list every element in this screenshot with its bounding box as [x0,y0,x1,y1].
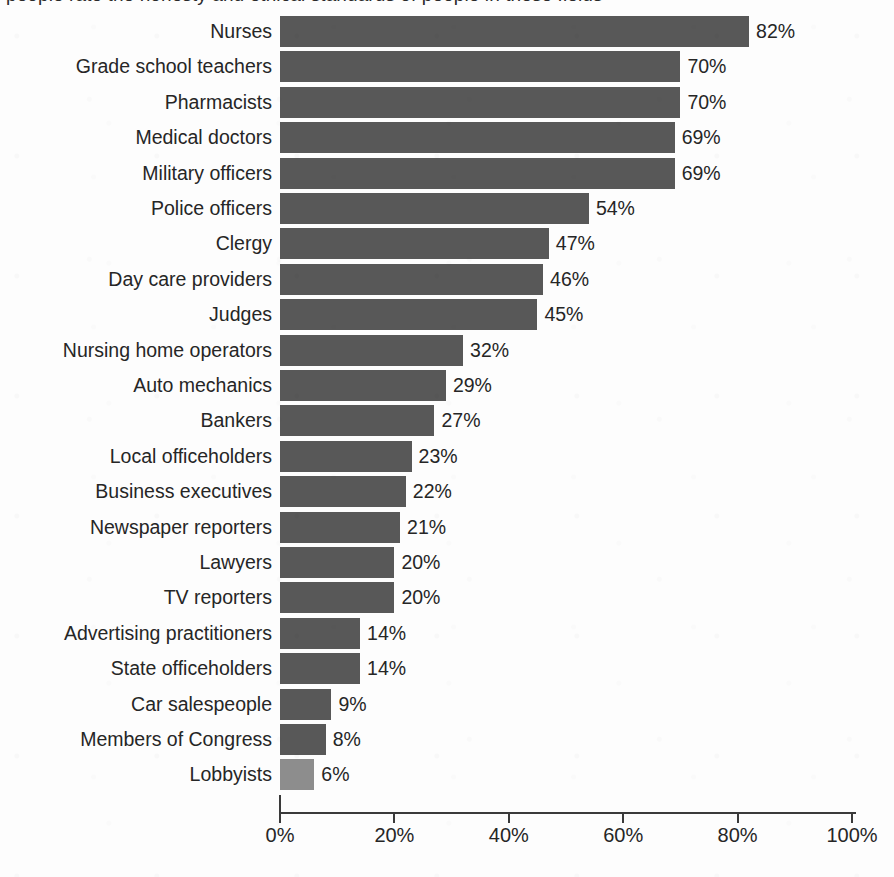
x-axis-tick-label: 40% [489,824,529,847]
bar-row: Local officeholders23% [0,441,894,472]
x-axis-tick [508,812,510,823]
bar-category-label: Advertising practitioners [0,618,272,649]
bar-category-label: Grade school teachers [0,51,272,82]
bar [280,299,537,330]
bar-value-label: 69% [682,158,721,189]
bar [280,405,434,436]
bar [280,264,543,295]
bar-value-label: 82% [756,16,795,47]
x-axis-tick [622,812,624,823]
bar-value-label: 70% [687,87,726,118]
chart-title-clipped: people rate the honesty and ethical stan… [0,0,894,6]
bar-value-label: 29% [453,370,492,401]
bar-category-label: Local officeholders [0,441,272,472]
bar-category-label: Business executives [0,476,272,507]
bar-value-label: 69% [682,122,721,153]
bar-row: Advertising practitioners14% [0,618,894,649]
x-axis-left-cap [279,795,281,813]
bar-value-label: 9% [338,689,366,720]
bar-row: Judges45% [0,299,894,330]
x-axis-tick-label: 20% [374,824,414,847]
bar-category-label: TV reporters [0,582,272,613]
bar [280,335,463,366]
x-axis-tick [851,812,853,823]
bar-row: Auto mechanics29% [0,370,894,401]
bar-value-label: 14% [367,618,406,649]
bar-value-label: 22% [413,476,452,507]
bar-category-label: Members of Congress [0,724,272,755]
bar [280,228,549,259]
bar-row: Car salespeople9% [0,689,894,720]
bar-category-label: Day care providers [0,264,272,295]
bar-row: Military officers69% [0,158,894,189]
bar-row: Grade school teachers70% [0,51,894,82]
bar-row: TV reporters20% [0,582,894,613]
chart-title-text: people rate the honesty and ethical stan… [0,0,894,6]
bar-category-label: Lobbyists [0,759,272,790]
bar-category-label: Nursing home operators [0,335,272,366]
bar [280,547,394,578]
bar [280,441,412,472]
bar-category-label: Pharmacists [0,87,272,118]
bar-chart-plot: Nurses82%Grade school teachers70%Pharmac… [0,0,894,877]
bar-row: Nursing home operators32% [0,335,894,366]
bar-row: Pharmacists70% [0,87,894,118]
x-axis-tick-label: 100% [826,824,877,847]
bar [280,512,400,543]
bar [280,724,326,755]
bar-row: Lawyers20% [0,547,894,578]
x-axis-tick-label: 80% [718,824,758,847]
bar-row: Lobbyists6% [0,759,894,790]
bar-category-label: Newspaper reporters [0,512,272,543]
bar-value-label: 45% [544,299,583,330]
bar [280,370,446,401]
x-axis-tick-label: 60% [603,824,643,847]
bar-category-label: Police officers [0,193,272,224]
bar-category-label: Auto mechanics [0,370,272,401]
bar-value-label: 8% [333,724,361,755]
bar-category-label: Military officers [0,158,272,189]
bar-value-label: 47% [556,228,595,259]
bar-category-label: State officeholders [0,653,272,684]
bar-category-label: Car salespeople [0,689,272,720]
bar-category-label: Medical doctors [0,122,272,153]
x-axis-line [280,812,856,814]
bar [280,582,394,613]
bar-row: Nurses82% [0,16,894,47]
bar-value-label: 20% [401,547,440,578]
bar [280,158,675,189]
bar [280,759,314,790]
bar-value-label: 21% [407,512,446,543]
bar [280,193,589,224]
bar-value-label: 70% [687,51,726,82]
bar [280,16,749,47]
x-axis-tick [279,812,281,823]
bar [280,51,680,82]
bar [280,87,680,118]
bar-category-label: Nurses [0,16,272,47]
bar-value-label: 46% [550,264,589,295]
bar-category-label: Bankers [0,405,272,436]
x-axis-tick [393,812,395,823]
bar-row: Newspaper reporters21% [0,512,894,543]
bar-category-label: Lawyers [0,547,272,578]
bar-category-label: Clergy [0,228,272,259]
bar-row: Medical doctors69% [0,122,894,153]
bar-row: Day care providers46% [0,264,894,295]
bar-value-label: 32% [470,335,509,366]
chart-page: people rate the honesty and ethical stan… [0,0,894,877]
bar [280,618,360,649]
bar-value-label: 23% [419,441,458,472]
bar [280,689,331,720]
bar-value-label: 27% [441,405,480,436]
x-axis-tick-label: 0% [266,824,295,847]
bar [280,122,675,153]
bar-row: State officeholders14% [0,653,894,684]
bar-value-label: 14% [367,653,406,684]
bar [280,653,360,684]
bar-row: Clergy47% [0,228,894,259]
bar-row: Members of Congress8% [0,724,894,755]
bar-value-label: 6% [321,759,349,790]
bar [280,476,406,507]
bar-category-label: Judges [0,299,272,330]
